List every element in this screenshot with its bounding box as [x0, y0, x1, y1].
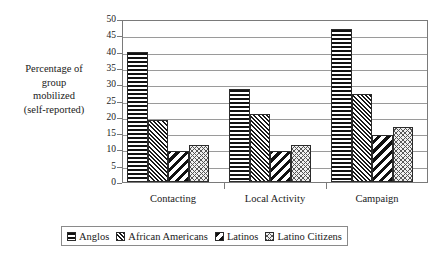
x-category-label: Campaign [326, 193, 428, 205]
legend-item[interactable]: Latino Citizens [265, 231, 341, 242]
bar[interactable] [168, 151, 189, 182]
y-tick-label: 35 [96, 64, 116, 74]
legend-swatch-icon [265, 232, 274, 241]
x-tick-mark [224, 183, 225, 189]
legend-item[interactable]: African Americans [116, 231, 208, 242]
legend-label: Latinos [227, 231, 259, 242]
bar-group [123, 21, 225, 182]
x-category-label: Contacting [122, 193, 224, 205]
y-tick-label: 50 [96, 15, 116, 25]
bar[interactable] [270, 151, 291, 182]
y-tick-label: 5 [96, 162, 116, 172]
legend-label: Anglos [79, 231, 109, 242]
legend-label: African Americans [128, 231, 208, 242]
legend-swatch-icon [116, 232, 125, 241]
bar[interactable] [189, 145, 210, 182]
legend-item[interactable]: Latinos [215, 231, 259, 242]
bar[interactable] [393, 127, 414, 182]
y-tick-label: 45 [96, 32, 116, 42]
y-tick-label: 0 [96, 178, 116, 188]
legend-label: Latino Citizens [277, 231, 341, 242]
bar[interactable] [352, 94, 373, 182]
y-tick-label: 15 [96, 129, 116, 139]
bar[interactable] [291, 145, 312, 182]
x-category-label: Local Activity [224, 193, 326, 205]
y-tick-label: 30 [96, 80, 116, 90]
bar[interactable] [372, 135, 393, 182]
legend-swatch-icon [215, 232, 224, 241]
legend-swatch-icon [67, 232, 76, 241]
y-tick-label: 25 [96, 97, 116, 107]
plot-area [122, 20, 428, 183]
y-tick-label: 40 [96, 48, 116, 58]
bar[interactable] [331, 29, 352, 182]
bar[interactable] [148, 120, 169, 182]
chart-legend: AnglosAfrican AmericansLatinosLatino Cit… [61, 226, 348, 246]
y-tick-label: 20 [96, 113, 116, 123]
bar-group [327, 21, 429, 182]
y-tick-label: 10 [96, 146, 116, 156]
bar[interactable] [127, 52, 148, 182]
bar-group [225, 21, 327, 182]
x-axis: ContactingLocal ActivityCampaign [122, 183, 428, 213]
x-tick-mark [326, 183, 327, 189]
bar[interactable] [250, 114, 271, 182]
legend-item[interactable]: Anglos [67, 231, 109, 242]
bar[interactable] [229, 89, 250, 182]
